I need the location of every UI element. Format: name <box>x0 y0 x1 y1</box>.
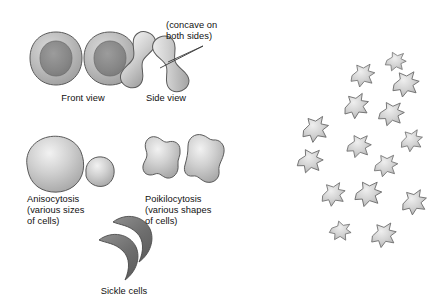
crenated-cell <box>401 189 429 216</box>
side-view-label: Side view <box>146 93 186 104</box>
poikilocytosis-label-line1: Poikilocytosis <box>145 194 202 205</box>
poikilocytosis-cell-1 <box>143 137 180 178</box>
anisocytosis-label-line1: Anisocytosis <box>27 194 79 205</box>
sickle-cell-group <box>99 216 152 280</box>
crenated-cell <box>400 129 424 152</box>
central-pallor <box>94 41 126 76</box>
anisocytosis-label-line2: (various sizes <box>27 205 85 216</box>
crenated-cell <box>328 219 354 245</box>
crenated-cell <box>371 223 397 248</box>
crenated-cell <box>321 182 347 207</box>
front-view-label: Front view <box>61 93 104 104</box>
crenated-cell <box>393 72 419 97</box>
concave-annotation-line1: (concave on <box>166 20 217 31</box>
anisocytosis-large-cell <box>27 136 84 192</box>
crenated-cell <box>346 134 372 159</box>
crenated-cell <box>374 154 398 177</box>
anisocytosis-small-cell <box>86 157 114 187</box>
crenated-cell <box>297 148 325 175</box>
crenated-cell <box>378 101 405 127</box>
sickle-cell-2 <box>99 234 138 280</box>
crenated-cell <box>354 181 382 208</box>
crenated-cell-cluster <box>297 51 429 248</box>
sickle-cells-label: Sickle cells <box>101 286 148 297</box>
crenated-cell <box>342 93 370 120</box>
poikilocytosis-label-line3: of cells) <box>145 216 177 227</box>
crenated-cell <box>351 64 375 87</box>
anisocytosis-label-line3: of cells) <box>27 216 59 227</box>
figure-canvas <box>0 0 445 300</box>
crenated-cell <box>302 116 330 143</box>
central-pallor <box>40 41 72 76</box>
crenated-cell <box>384 51 407 73</box>
front-view-cell-1 <box>30 32 82 85</box>
anisocytosis-cell-group <box>27 136 114 192</box>
poikilocytosis-cell-group <box>143 135 224 183</box>
poikilocytosis-cell-2 <box>184 135 224 183</box>
blood-cell-figure: Front view Side view (concave on both si… <box>0 0 445 300</box>
side-view-cell-2 <box>150 33 192 95</box>
concave-annotation-line2: both sides) <box>166 31 212 42</box>
poikilocytosis-label-line2: (various shapes <box>145 205 211 216</box>
